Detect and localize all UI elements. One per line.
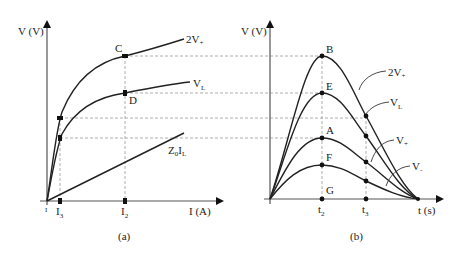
point-label-b: B	[326, 43, 333, 55]
origin-label-a: I	[45, 206, 48, 214]
point-c	[122, 54, 128, 58]
point-label-e: E	[326, 80, 333, 92]
curve-b-vplus	[270, 138, 418, 199]
y-axis-label-a: V (V)	[18, 25, 44, 38]
curve-label-a-z0il: Z0IL	[168, 144, 186, 158]
point-label-a: A	[326, 124, 334, 136]
leader-2vplus	[359, 71, 386, 90]
curve-a-z0il	[47, 133, 184, 201]
caption-a: (a)	[118, 230, 131, 243]
panel-a: V (V) I (A) I I3 I2 C D 2V+ VL Z0IL (a)	[18, 22, 366, 243]
point-b	[320, 54, 325, 59]
curve-label-b-vplus: V+	[396, 134, 408, 148]
point-t3-vplus	[364, 160, 369, 165]
point-i2	[123, 198, 127, 204]
point-a-vl-i3	[58, 135, 62, 141]
point-t3-vl	[364, 134, 369, 139]
point-i3	[58, 198, 62, 204]
point-g	[320, 197, 325, 202]
tick-label-i2: I2	[121, 205, 129, 220]
leader-vl	[366, 102, 389, 114]
x-axis-label-b: t (s)	[418, 204, 436, 217]
point-d	[123, 90, 127, 96]
curve-label-b-vminus: V-	[412, 160, 423, 174]
point-t3-vminus	[364, 179, 369, 184]
curve-label-a-vl: VL	[193, 77, 205, 92]
curve-label-a-2vplus: 2V+	[186, 33, 203, 47]
curve-label-b-2vplus: 2V+	[388, 66, 405, 80]
point-end	[416, 197, 420, 201]
point-label-f: F	[326, 151, 332, 163]
tick-label-t3: t3	[362, 203, 369, 218]
point-t3-2vplus	[364, 114, 369, 119]
curve-label-b-vl: VL	[390, 96, 402, 111]
point-e	[320, 91, 325, 96]
tick-label-i3: I3	[56, 205, 64, 220]
panel-b: V (V) t (s) t2 t3 B E A F G 2V+ VL V+ V-…	[241, 22, 442, 243]
point-a	[320, 136, 325, 141]
point-label-g: G	[326, 184, 334, 196]
tick-label-t2: t2	[318, 203, 325, 218]
point-a-2vplus-i3	[57, 116, 63, 120]
diagram-canvas: V (V) I (A) I I3 I2 C D 2V+ VL Z0IL (a)	[0, 0, 460, 255]
point-label-c: C	[115, 42, 122, 54]
x-axis-label-a: I (A)	[189, 205, 211, 218]
point-f	[320, 163, 325, 168]
curve-a-2vplus	[47, 39, 184, 201]
point-t3	[364, 197, 369, 202]
y-axis-label-b: V (V)	[241, 25, 267, 38]
caption-b: (b)	[350, 230, 363, 243]
point-label-d: D	[129, 94, 137, 106]
